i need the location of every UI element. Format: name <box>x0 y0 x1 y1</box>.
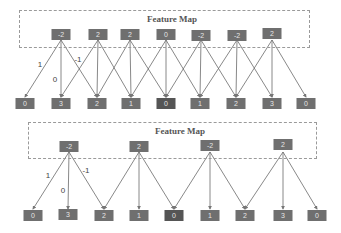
connection-arrow <box>210 152 245 209</box>
feature-node: 2 <box>130 141 149 152</box>
output-node: 2 <box>236 210 255 221</box>
output-node: 3 <box>263 98 282 109</box>
connection-arrow <box>68 152 69 209</box>
connection-arrow <box>200 40 201 97</box>
connection-arrow <box>283 152 317 209</box>
connection-arrow <box>139 152 174 209</box>
connection-arrow <box>236 40 237 97</box>
output-node: 0 <box>308 210 327 221</box>
connection-arrow <box>98 40 131 97</box>
connection-arrow <box>25 40 61 97</box>
weight-label: 1 <box>38 60 42 69</box>
weight-label: 0 <box>53 75 57 84</box>
connection-arrow <box>200 40 237 97</box>
feature-node: 2 <box>274 139 293 150</box>
connection-arrow <box>272 40 306 97</box>
output-node: 0 <box>165 210 184 221</box>
weight-label: 0 <box>61 186 65 195</box>
weight-label: 1 <box>46 171 50 180</box>
transposed-convolution-figure: Feature Map -2 2 2 0 -2 -2 2 1 0 -1 0 3 … <box>0 0 341 233</box>
output-node: 1 <box>130 210 149 221</box>
connection-arrow <box>33 152 69 209</box>
connection-arrow <box>97 40 98 97</box>
output-node: 2 <box>95 210 114 221</box>
connection-arrow <box>104 152 139 209</box>
connection-arrow <box>69 152 104 209</box>
feature-node: -2 <box>60 141 79 152</box>
output-node: 3 <box>274 210 293 221</box>
feature-node: -2 <box>201 140 220 151</box>
output-node: 2 <box>88 98 107 109</box>
output-node: 2 <box>227 98 246 109</box>
feature-node: -2 <box>192 30 211 41</box>
output-node: 0 <box>297 98 316 109</box>
feature-node: -2 <box>228 30 247 41</box>
feature-node: 0 <box>157 29 176 40</box>
connection-arrow <box>245 152 283 209</box>
connection-arrow <box>174 152 210 209</box>
output-node: 1 <box>201 210 220 221</box>
output-node: 3 <box>52 98 71 109</box>
feature-node: 2 <box>263 28 282 39</box>
connection-arrow <box>130 40 131 97</box>
output-node: 0 <box>157 98 176 109</box>
output-node: 0 <box>24 210 43 221</box>
output-node: 3 <box>59 209 78 220</box>
weight-label: -1 <box>74 55 81 64</box>
connection-arrow <box>97 40 130 97</box>
output-node: 1 <box>122 98 141 109</box>
feature-node: 2 <box>121 29 140 40</box>
weight-label: -1 <box>82 166 89 175</box>
feature-node: 2 <box>89 29 108 40</box>
feature-node: -2 <box>52 29 71 40</box>
feature-map-title-top: Feature Map <box>147 14 197 24</box>
output-node: 0 <box>16 98 35 109</box>
feature-map-title-bottom: Feature Map <box>155 126 205 136</box>
output-node: 1 <box>191 98 210 109</box>
